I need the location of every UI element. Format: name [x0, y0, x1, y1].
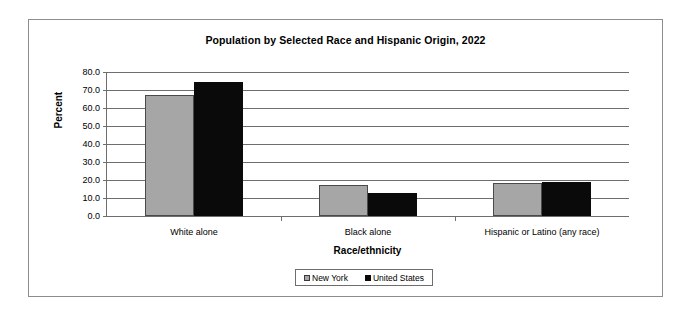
y-axis-tick-label: 20.0: [82, 175, 100, 185]
gridline: [107, 90, 629, 91]
gridline: [107, 216, 629, 217]
legend-label: New York: [312, 273, 348, 283]
y-axis-tick-label: 50.0: [82, 121, 100, 131]
bar-united-states-0: [194, 82, 243, 216]
y-axis-title: Percent: [53, 115, 64, 129]
x-axis-category-label: Black alone: [345, 227, 392, 237]
y-axis-tick-label: 10.0: [82, 193, 100, 203]
bar-united-states-1: [368, 193, 417, 216]
bar-new-york-1: [319, 185, 368, 216]
x-axis-title: Race/ethnicity: [106, 245, 629, 256]
legend-entry-united-states: United States: [365, 273, 424, 283]
plot-area: 80.070.060.050.040.030.020.010.00.0 Whit…: [106, 72, 629, 217]
legend-swatch-icon: [365, 275, 371, 281]
chart-frame: Population by Selected Race and Hispanic…: [28, 19, 663, 297]
y-axis-tick: [103, 72, 107, 73]
x-axis-tick: [455, 216, 456, 221]
x-axis-category-label: Hispanic or Latino (any race): [484, 227, 599, 237]
y-axis-tick: [103, 180, 107, 181]
legend-entry-new-york: New York: [304, 273, 348, 283]
y-axis-tick: [103, 216, 107, 217]
y-axis-tick-label: 30.0: [82, 157, 100, 167]
chart-title: Population by Selected Race and Hispanic…: [29, 34, 662, 46]
chart-legend: New YorkUnited States: [295, 269, 433, 286]
x-axis-tick: [281, 216, 282, 221]
gridline: [107, 72, 629, 73]
y-axis-tick: [103, 144, 107, 145]
y-axis-tick: [103, 108, 107, 109]
x-axis-category-label: White alone: [170, 227, 218, 237]
y-axis-tick-label: 60.0: [82, 103, 100, 113]
y-axis-tick: [103, 162, 107, 163]
bar-united-states-2: [542, 182, 591, 216]
bar-new-york-2: [493, 183, 542, 216]
y-axis-tick-label: 40.0: [82, 139, 100, 149]
y-axis-tick: [103, 126, 107, 127]
bar-new-york-0: [145, 95, 194, 216]
y-axis-tick: [103, 90, 107, 91]
legend-swatch-icon: [304, 275, 310, 281]
y-axis-tick-label: 70.0: [82, 85, 100, 95]
y-axis-tick-label: 0.0: [87, 211, 100, 221]
legend-label: United States: [373, 273, 424, 283]
y-axis-tick: [103, 198, 107, 199]
y-axis-tick-label: 80.0: [82, 67, 100, 77]
